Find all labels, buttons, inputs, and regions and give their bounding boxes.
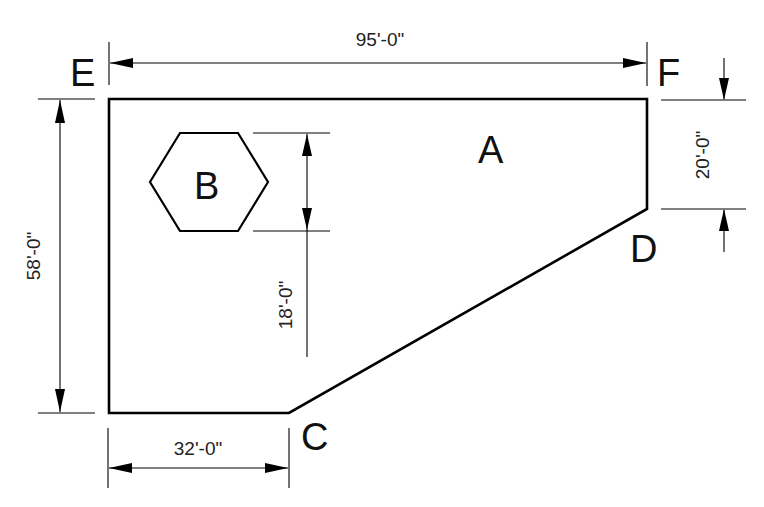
dimension-hexagon-offset: 18'-0" <box>253 133 330 357</box>
vertex-label-c: C <box>301 416 328 458</box>
dimension-bottom-width-text: 32'-0" <box>174 438 222 459</box>
dimension-left-height-text: 58'-0" <box>23 232 44 280</box>
dimension-top-width: 95'-0" <box>109 29 647 86</box>
site-plan-drawing: 95'-0" 58'-0" 20'-0" 18'-0" 32'-0" <box>0 0 764 507</box>
vertex-label-f: F <box>657 52 680 94</box>
vertex-label-e: E <box>70 52 95 94</box>
dimension-bottom-width: 32'-0" <box>108 428 289 488</box>
region-label-b: B <box>194 165 219 207</box>
region-label-a: A <box>478 129 504 171</box>
dimension-hexagon-offset-text: 18'-0" <box>275 281 296 329</box>
dimension-left-height: 58'-0" <box>23 99 95 413</box>
region-a-outline <box>109 99 647 413</box>
dimension-right-segment-text: 20'-0" <box>692 131 713 179</box>
vertex-label-d: D <box>630 228 657 270</box>
dimension-top-width-text: 95'-0" <box>356 29 404 50</box>
